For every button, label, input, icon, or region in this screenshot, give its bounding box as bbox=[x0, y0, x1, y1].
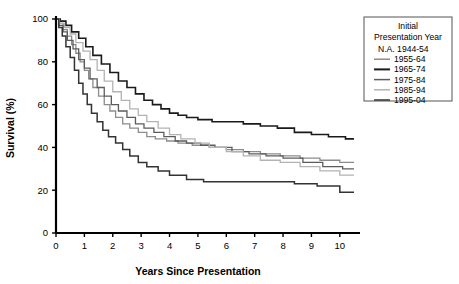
x-tick-label: 10 bbox=[335, 240, 346, 251]
legend-label-5: 1995-04 bbox=[394, 95, 426, 105]
legend-label-3: 1975-84 bbox=[394, 75, 426, 85]
legend-label-1: 1955-64 bbox=[394, 54, 426, 64]
y-tick-label: 0 bbox=[43, 227, 48, 238]
x-tick-label: 3 bbox=[138, 240, 143, 251]
x-tick-label: 2 bbox=[110, 240, 115, 251]
x-tick-label: 5 bbox=[195, 240, 200, 251]
x-tick-label: 9 bbox=[309, 240, 314, 251]
x-tick-label: 4 bbox=[167, 240, 172, 251]
x-tick-label: 8 bbox=[280, 240, 285, 251]
chart-legend: InitialPresentation YearN.A. 1944-541955… bbox=[364, 17, 452, 105]
y-axis-title: Survival (%) bbox=[4, 98, 16, 158]
legend-title-line2: Presentation Year bbox=[374, 32, 442, 42]
y-tick-label: 20 bbox=[37, 185, 48, 196]
y-tick-label: 100 bbox=[32, 13, 48, 24]
x-tick-label: 1 bbox=[82, 240, 87, 251]
x-tick-label: 0 bbox=[53, 240, 58, 251]
y-tick-label: 40 bbox=[37, 142, 48, 153]
survival-chart: 012345678910 020406080100 Years Since Pr… bbox=[0, 0, 459, 284]
legend-title-line1: Initial bbox=[398, 21, 418, 31]
x-tick-label: 6 bbox=[224, 240, 229, 251]
y-tick-label: 60 bbox=[37, 99, 48, 110]
legend-label-0: N.A. 1944-54 bbox=[378, 44, 429, 54]
legend-label-2: 1965-74 bbox=[394, 64, 426, 74]
x-tick-label: 7 bbox=[252, 240, 257, 251]
x-axis-title: Years Since Presentation bbox=[135, 265, 260, 277]
y-tick-label: 80 bbox=[37, 56, 48, 67]
legend-label-4: 1985-94 bbox=[394, 85, 426, 95]
